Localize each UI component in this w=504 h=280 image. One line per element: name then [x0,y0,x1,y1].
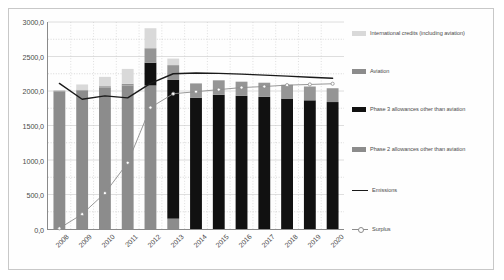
plot-area [47,22,344,230]
legend-swatch-icon [352,147,366,152]
x-axis-tick-label: 2013 [169,233,185,249]
x-axis-tick-label: 2019 [306,233,322,249]
legend-item[interactable]: Surplus [352,226,490,232]
legend-item[interactable]: Phase 3 allowances other than aviation [352,106,490,112]
legend-swatch-icon [352,107,366,112]
x-axis: 2008200920102011201220132014201520162017… [47,231,344,271]
legend-item-label: International credits (including aviatio… [370,30,465,36]
legend-item-label: Phase 2 allowances other than aviation [370,146,465,152]
chart-legend: International credits (including aviatio… [352,30,490,245]
x-axis-tick-label: 2017 [260,233,276,249]
legend-line-icon [352,188,368,193]
y-axis-tick-label: 0,0 [34,226,44,235]
x-axis-tick-label: 2016 [237,233,253,249]
x-axis-tick-label: 2010 [100,233,116,249]
x-axis-tick-label: 2012 [146,233,162,249]
x-axis-tick-label: 2009 [78,233,94,249]
legend-swatch-icon [352,31,366,36]
x-axis-tick-label: 2011 [124,233,139,248]
legend-item[interactable]: International credits (including aviatio… [352,30,490,36]
legend-swatch-icon [352,69,366,74]
y-axis-tick-label: 1500,0 [23,122,44,131]
x-axis-tick-label: 2020 [329,233,345,249]
y-axis: 0,0500,01000,01500,02000,02500,03000,0 [8,22,44,230]
legend-item-label: Emissions [372,187,397,193]
legend-line-icon [352,227,368,232]
y-axis-tick-label: 500,0 [27,191,45,200]
x-axis-tick-label: 2014 [192,233,208,249]
chart-container: 0,0500,01000,01500,02000,02500,03000,0 2… [0,0,504,280]
legend-item-label: Surplus [372,226,391,232]
x-axis-tick-label: 2008 [55,233,71,249]
plot-graphics [48,22,344,229]
y-axis-tick-label: 3000,0 [23,18,44,27]
legend-item[interactable]: Phase 2 allowances other than aviation [352,146,490,152]
legend-item-label: Phase 3 allowances other than aviation [370,106,465,112]
y-axis-tick-label: 2500,0 [23,52,44,61]
y-axis-tick-label: 2000,0 [23,87,44,96]
legend-item[interactable]: Emissions [352,187,490,193]
x-axis-tick-label: 2018 [283,233,299,249]
legend-item-label: Aviation [370,68,389,74]
legend-item[interactable]: Aviation [352,68,490,74]
x-axis-tick-label: 2015 [215,233,231,249]
y-axis-tick-label: 1000,0 [23,156,44,165]
